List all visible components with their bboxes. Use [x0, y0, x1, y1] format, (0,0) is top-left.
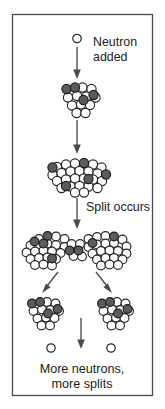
- nucleon: [93, 183, 102, 192]
- free-neutron-right: [107, 344, 115, 352]
- nucleon: [70, 188, 79, 197]
- nucleon: [70, 83, 79, 92]
- nucleon-dark: [84, 174, 93, 183]
- nucleon: [37, 321, 46, 330]
- nucleon-dark: [48, 163, 57, 172]
- nucleon-dark: [65, 246, 74, 255]
- caption-line2: more splits: [52, 377, 113, 391]
- nucleon-dark: [28, 299, 37, 308]
- free-neutron-left: [47, 344, 55, 352]
- label-split-occurs: Split occurs: [86, 200, 150, 214]
- nucleon-dark: [39, 239, 48, 248]
- nucleon: [79, 188, 88, 197]
- nucleon-dark: [114, 309, 123, 318]
- nucleon: [81, 108, 90, 117]
- nucleon: [106, 298, 115, 307]
- nucleon-dark: [61, 181, 70, 190]
- nucleon-dark: [62, 84, 71, 93]
- nucleon-dark: [123, 305, 132, 314]
- nucleon-dark: [48, 254, 57, 263]
- fission-diagram-canvas: Neutron added: [0, 0, 165, 409]
- nucleon-dark: [110, 232, 119, 241]
- nucleon-dark: [89, 90, 98, 99]
- nucleon: [36, 298, 45, 307]
- label-neutron-added-line1: Neutron: [93, 35, 137, 49]
- nucleon: [114, 261, 123, 270]
- fission-diagram: Neutron added: [0, 0, 165, 409]
- nucleon-dark: [79, 158, 88, 167]
- nucleon: [46, 321, 55, 330]
- nucleon-dark: [53, 305, 62, 314]
- nucleon-dark: [88, 239, 97, 248]
- nucleon: [72, 108, 81, 117]
- nucleon: [39, 260, 48, 269]
- nucleon-dark: [101, 170, 110, 179]
- caption-line1: More neutrons,: [40, 362, 125, 376]
- nucleon: [107, 321, 116, 330]
- stage-incoming-neutron: [73, 34, 81, 42]
- nucleon: [116, 321, 125, 330]
- nucleon: [31, 261, 40, 270]
- free-neutron: [73, 34, 81, 42]
- label-neutron-added-line2: added: [93, 50, 128, 64]
- nucleon-dark: [44, 309, 53, 318]
- nucleon: [52, 232, 61, 241]
- nucleon: [97, 261, 106, 270]
- nucleon: [105, 260, 114, 269]
- nucleon-dark: [30, 237, 39, 246]
- nucleon-dark: [79, 95, 88, 104]
- nucleon-dark: [74, 246, 83, 255]
- nucleon-dark: [98, 299, 107, 308]
